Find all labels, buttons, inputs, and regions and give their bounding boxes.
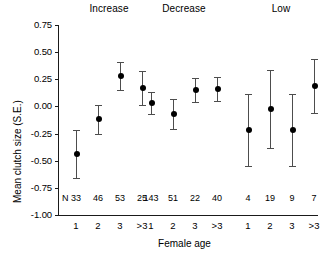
sample-size-row-label: N [62, 193, 69, 203]
y-axis-tick [55, 106, 59, 107]
x-axis-line [58, 215, 319, 216]
error-bar-cap-lower [192, 102, 199, 103]
error-bar-cap-upper [289, 94, 296, 95]
y-axis-tick [55, 188, 59, 189]
error-bar-cap-upper [95, 105, 102, 106]
error-bar-cap-upper [148, 92, 155, 93]
data-point [118, 73, 124, 79]
panel-title-low: Low [241, 3, 321, 14]
error-bar-cap-lower [245, 166, 252, 167]
x-tick-label: >3 [202, 220, 232, 231]
panel-title-increase: Increase [69, 3, 149, 14]
y-tick-label: -1.00 [16, 209, 52, 220]
y-tick-label: -0.75 [16, 182, 52, 193]
error-bar-cap-upper [192, 78, 199, 79]
data-point [312, 83, 318, 89]
data-point [171, 111, 177, 117]
y-axis-tick [55, 161, 59, 162]
panel-title-decrease: Decrease [144, 3, 224, 14]
error-bar-cap-lower [289, 166, 296, 167]
data-point [96, 116, 102, 122]
error-bar-cap-lower [95, 134, 102, 135]
y-tick-label: -0.25 [16, 128, 52, 139]
sample-size-value: 7 [299, 193, 325, 203]
error-bar-cap-upper [73, 130, 80, 131]
error-bar-cap-upper [139, 71, 146, 72]
error-bar-cap-lower [139, 105, 146, 106]
y-axis-tick [55, 134, 59, 135]
error-bar-cap-lower [117, 90, 124, 91]
data-point [290, 127, 296, 133]
error-bar-cap-lower [214, 101, 221, 102]
error-bar-cap-upper [267, 70, 274, 71]
data-point [149, 100, 155, 106]
data-point [193, 87, 199, 93]
error-bar-cap-lower [148, 114, 155, 115]
y-axis-tick [55, 79, 59, 80]
error-bar-cap-lower [73, 178, 80, 179]
error-bar-cap-upper [170, 99, 177, 100]
error-bar-cap-upper [311, 59, 318, 60]
y-axis-tick [55, 25, 59, 26]
data-point [246, 127, 252, 133]
y-tick-label: 0.75 [16, 19, 52, 30]
clutch-size-figure: Mean clutch size (S.E.) Female age 0.750… [0, 0, 325, 256]
x-tick-label: >3 [299, 220, 325, 231]
sample-size-value: 40 [202, 193, 232, 203]
error-bar-cap-lower [311, 113, 318, 114]
y-axis-tick [55, 215, 59, 216]
data-point [140, 85, 146, 91]
error-bar-cap-lower [267, 148, 274, 149]
y-tick-label: 0.25 [16, 73, 52, 84]
y-tick-label: -0.50 [16, 155, 52, 166]
y-tick-label: 0.50 [16, 46, 52, 57]
error-bar-cap-lower [170, 129, 177, 130]
x-axis-label: Female age [22, 238, 325, 249]
y-tick-label: 0.00 [16, 100, 52, 111]
data-point [215, 86, 221, 92]
y-axis-tick [55, 52, 59, 53]
error-bar-cap-upper [117, 62, 124, 63]
data-point [74, 151, 80, 157]
error-bar-cap-upper [245, 94, 252, 95]
error-bar-cap-upper [214, 77, 221, 78]
data-point [268, 106, 274, 112]
